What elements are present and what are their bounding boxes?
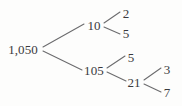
- edge-105-to-21: [107, 72, 126, 81]
- node-leaf-5-upper: 5: [123, 27, 130, 40]
- node-leaf-3: 3: [164, 63, 171, 76]
- edge-root-to-105: [43, 51, 82, 70]
- node-leaf-2: 2: [123, 7, 130, 20]
- edge-10-to-5: [104, 27, 120, 34]
- edge-105-to-5: [107, 56, 125, 68]
- edge-21-to-7: [144, 84, 161, 92]
- node-leaf-5-lower: 5: [128, 51, 135, 64]
- node-level1-bottom-105: 105: [84, 64, 104, 77]
- node-leaf-7: 7: [164, 86, 171, 99]
- edge-21-to-3: [144, 68, 161, 80]
- edge-10-to-2: [104, 12, 120, 23]
- node-level1-top-10: 10: [87, 19, 100, 32]
- edge-root-to-10: [43, 24, 84, 47]
- factor-tree-diagram: 1,050 10 105 2 5 5 21 3 7: [0, 0, 182, 106]
- node-root: 1,050: [8, 43, 38, 56]
- node-level2-21: 21: [127, 76, 140, 89]
